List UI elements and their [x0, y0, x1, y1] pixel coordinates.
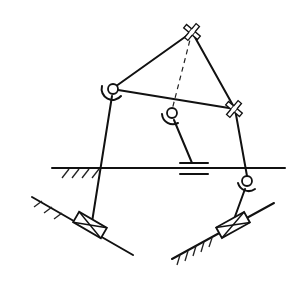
left-slider [73, 212, 107, 238]
joint-top [179, 19, 204, 44]
link-right-down [235, 109, 247, 176]
incline-hatch-icon [34, 201, 62, 219]
ground [52, 163, 285, 178]
joint-right [221, 96, 246, 121]
links [92, 32, 247, 222]
joint-circle-icon [108, 84, 118, 94]
ground-hatch-icon [62, 169, 99, 178]
right-slider [216, 212, 250, 238]
link-left-slider [92, 96, 112, 222]
linkage-diagram [0, 0, 303, 281]
incline-hatch-icon [177, 238, 212, 265]
mechanism-svg [0, 0, 303, 281]
link-middle-ground [174, 120, 192, 163]
joint-circle-icon [167, 108, 177, 118]
link-top-right [192, 32, 235, 109]
joint-circle-icon [242, 176, 252, 186]
joint-lower-right [238, 176, 255, 191]
